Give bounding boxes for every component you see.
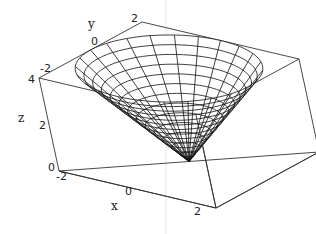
z-axis-label: z	[18, 111, 24, 125]
z-tick-4: 4	[28, 73, 35, 86]
x-axis-label: x	[111, 199, 118, 213]
box-edge	[299, 59, 316, 152]
y-tick-0: 0	[91, 35, 98, 48]
box-edge	[216, 152, 316, 208]
cone-mesh	[75, 35, 263, 162]
y-tick-2: 2	[131, 12, 138, 25]
cone-surface-plot: y 2 0 -2 4 z 2 0 -2 0 x 2	[0, 0, 316, 234]
z-tick-2: 2	[39, 119, 46, 132]
x-tick-neg2: -2	[56, 170, 67, 183]
z-tick-0: 0	[48, 161, 55, 174]
y-tick-neg2: -2	[40, 62, 51, 75]
y-axis-label: y	[87, 17, 95, 31]
x-tick-2: 2	[194, 205, 201, 218]
x-tick-0: 0	[125, 185, 132, 198]
box-edge	[59, 171, 216, 208]
